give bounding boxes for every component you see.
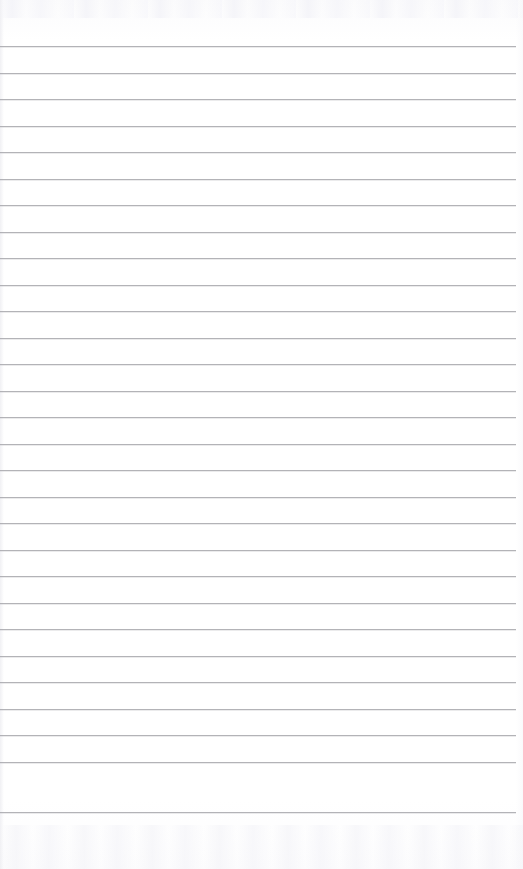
writing-line-26 [0,689,516,709]
ruled-line [0,364,516,365]
writing-line-18 [0,477,516,497]
writing-line-25 [0,662,516,682]
ruled-line [0,285,516,286]
writing-line-17 [0,450,516,470]
ruled-line [0,682,516,683]
ruled-line [0,205,516,206]
ruled-line [0,126,516,127]
ruled-line [0,179,516,180]
writing-line-1 [0,26,516,46]
writing-line-9 [0,238,516,258]
ruled-line [0,258,516,259]
ruled-line [0,46,516,47]
writing-line-8 [0,212,516,232]
writing-line-27 [0,715,516,735]
writing-line-21 [0,556,516,576]
writing-line-3 [0,79,516,99]
writing-line-12 [0,318,516,338]
ruled-line [0,73,516,74]
writing-line-28 [0,742,516,762]
ruled-line [0,311,516,312]
scanned-page [0,0,523,869]
writing-line-6 [0,159,516,179]
ruled-line [0,709,516,710]
writing-line-4 [0,106,516,126]
writing-line-16 [0,424,516,444]
writing-line-2 [0,53,516,73]
writing-line-22 [0,583,516,603]
writing-line-11 [0,291,516,311]
ruled-line [0,99,516,100]
writing-line-13 [0,344,516,364]
ruled-line [0,576,516,577]
ruled-line [0,812,516,813]
writing-line-20 [0,530,516,550]
ruled-line [0,497,516,498]
ruled-line [0,232,516,233]
ruled-line [0,603,516,604]
writing-line-10 [0,265,516,285]
ruled-line [0,470,516,471]
ruled-line [0,417,516,418]
ruled-line [0,444,516,445]
writing-line-29 [0,792,516,812]
ruled-line [0,762,516,763]
ruled-line [0,152,516,153]
writing-line-24 [0,636,516,656]
ruled-line [0,735,516,736]
writing-line-5 [0,132,516,152]
ruled-line [0,391,516,392]
writing-line-15 [0,397,516,417]
ruled-line [0,523,516,524]
ruled-line [0,629,516,630]
writing-line-23 [0,609,516,629]
writing-line-19 [0,503,516,523]
ruled-line [0,338,516,339]
writing-line-7 [0,185,516,205]
ruled-line [0,656,516,657]
ruled-line [0,550,516,551]
writing-line-14 [0,371,516,391]
